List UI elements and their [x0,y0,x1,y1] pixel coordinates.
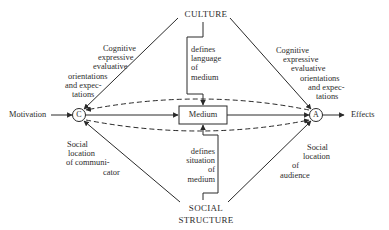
motivation-label: Motivation [9,110,46,119]
communicator-letter: C [74,110,84,119]
social-to-communicator-label: Social location of communi- cator [66,140,136,177]
culture-to-communicator-label: Cognitive expressive evaluative orientat… [60,44,136,99]
effects-label: Effects [351,110,375,119]
social-structure-label: SOCIAL STRUCTURE [176,202,236,226]
culture-to-medium-label: defines language of medium [191,45,221,82]
audience-letter: A [311,110,321,119]
social-structure-line2: STRUCTURE [176,214,236,226]
social-structure-line1: SOCIAL [176,202,236,214]
medium-label: Medium [179,110,227,119]
culture-to-audience-label: Cognitive expressive evaluative orientat… [276,46,356,101]
culture-label: CULTURE [180,8,232,20]
social-to-audience-label: Social location of audience [280,143,340,180]
social-to-medium-label: defines situation of medium [170,147,215,184]
